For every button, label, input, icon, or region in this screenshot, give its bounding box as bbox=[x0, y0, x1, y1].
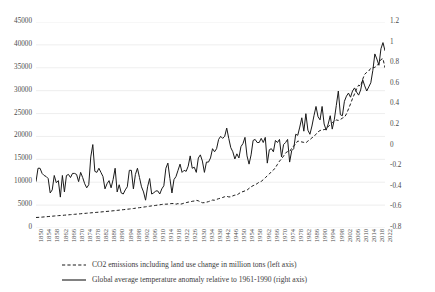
y-axis-left: 0500010000150002000025000300003500040000… bbox=[0, 22, 34, 228]
y-tick-label-left: 25000 bbox=[14, 110, 32, 117]
x-tick-label: 1918 bbox=[176, 229, 183, 242]
y-tick-label-right: 1.2 bbox=[390, 18, 399, 25]
y-tick-label-left: 5000 bbox=[18, 201, 32, 208]
y-tick-label-right: 1 bbox=[390, 39, 394, 46]
legend-swatch-dashed-icon bbox=[62, 260, 86, 270]
x-tick-label: 1954 bbox=[249, 229, 256, 242]
x-tick-label: 1902 bbox=[144, 229, 151, 242]
x-tick-label: 1894 bbox=[128, 229, 135, 242]
y-tick-label-right: 0.8 bbox=[390, 59, 399, 66]
x-tick-label: 1870 bbox=[79, 229, 86, 242]
y-tick-label-left: 20000 bbox=[14, 132, 32, 139]
x-tick-label: 2010 bbox=[363, 229, 370, 242]
y-tick-label-left: 10000 bbox=[14, 178, 32, 185]
x-tick-label: 1998 bbox=[339, 229, 346, 242]
x-tick-label: 1946 bbox=[233, 229, 240, 242]
legend-label-temperature-anomaly: Global average temperature anomaly relat… bbox=[92, 276, 307, 284]
plot-area bbox=[36, 22, 385, 228]
y-tick-label-right: 0.2 bbox=[390, 121, 399, 128]
x-tick-label: 1974 bbox=[290, 229, 297, 242]
chart-legend: CO2 emissions including land use change … bbox=[62, 258, 392, 288]
x-tick-label: 1854 bbox=[46, 229, 53, 242]
y-tick-label-right: -0.6 bbox=[390, 203, 401, 210]
x-tick-label: 2018 bbox=[379, 229, 386, 242]
series-line-co2-emissions bbox=[36, 59, 385, 218]
y-tick-label-right: -0.2 bbox=[390, 162, 401, 169]
y-tick-label-left: 0 bbox=[28, 224, 32, 231]
y-axis-right: -0.8-0.6-0.4-0.200.20.40.60.811.2 bbox=[387, 22, 417, 228]
x-tick-label: 1942 bbox=[225, 229, 232, 242]
x-tick-label: 1850 bbox=[38, 229, 45, 242]
x-tick-label: 1970 bbox=[282, 229, 289, 242]
x-tick-label: 1994 bbox=[330, 229, 337, 242]
x-tick-label: 2014 bbox=[371, 229, 378, 242]
y-tick-label-right: 0.6 bbox=[390, 80, 399, 87]
x-tick-label: 1926 bbox=[192, 229, 199, 242]
x-tick-label: 1878 bbox=[95, 229, 102, 242]
x-tick-label: 1866 bbox=[71, 229, 78, 242]
x-tick-label: 1890 bbox=[119, 229, 126, 242]
x-axis: 1850185418581862186618701874187818821886… bbox=[36, 229, 385, 257]
x-tick-label: 1990 bbox=[322, 229, 329, 242]
y-tick-label-left: 15000 bbox=[14, 155, 32, 162]
x-tick-label: 1906 bbox=[152, 229, 159, 242]
x-tick-label: 1938 bbox=[217, 229, 224, 242]
legend-label-co2-emissions: CO2 emissions including land use change … bbox=[92, 261, 297, 269]
y-tick-label-left: 35000 bbox=[14, 64, 32, 71]
y-tick-label-right: 0.4 bbox=[390, 100, 399, 107]
y-tick-label-left: 40000 bbox=[14, 41, 32, 48]
y-tick-label-right: 0 bbox=[390, 142, 394, 149]
legend-item-co2-emissions: CO2 emissions including land use change … bbox=[62, 258, 392, 272]
x-tick-label: 2002 bbox=[347, 229, 354, 242]
x-tick-label: 1978 bbox=[298, 229, 305, 242]
x-tick-label: 1958 bbox=[257, 229, 264, 242]
x-tick-label: 1986 bbox=[314, 229, 321, 242]
x-tick-label: 1858 bbox=[54, 229, 61, 242]
chart-svg bbox=[36, 22, 385, 228]
x-tick-label: 1962 bbox=[266, 229, 273, 242]
y-tick-label-right: -0.4 bbox=[390, 183, 401, 190]
x-tick-label: 2006 bbox=[355, 229, 362, 242]
x-tick-label: 2022 bbox=[387, 229, 394, 242]
x-tick-label: 1966 bbox=[274, 229, 281, 242]
y-tick-label-left: 30000 bbox=[14, 87, 32, 94]
x-tick-label: 1910 bbox=[160, 229, 167, 242]
legend-item-temperature-anomaly: Global average temperature anomaly relat… bbox=[62, 273, 392, 287]
x-tick-label: 1950 bbox=[241, 229, 248, 242]
x-tick-label: 1922 bbox=[184, 229, 191, 242]
x-tick-label: 1882 bbox=[103, 229, 110, 242]
x-tick-label: 1874 bbox=[87, 229, 94, 242]
x-tick-label: 1934 bbox=[209, 229, 216, 242]
x-tick-label: 1886 bbox=[111, 229, 118, 242]
x-tick-label: 1982 bbox=[306, 229, 313, 242]
x-tick-label: 1898 bbox=[136, 229, 143, 242]
series-line-temperature-anomaly bbox=[36, 43, 385, 201]
x-tick-label: 1914 bbox=[168, 229, 175, 242]
legend-swatch-solid-icon bbox=[62, 275, 86, 285]
x-tick-label: 1862 bbox=[63, 229, 70, 242]
y-tick-label-left: 45000 bbox=[14, 18, 32, 25]
chart-container: 0500010000150002000025000300003500040000… bbox=[0, 0, 435, 292]
x-tick-label: 1930 bbox=[201, 229, 208, 242]
